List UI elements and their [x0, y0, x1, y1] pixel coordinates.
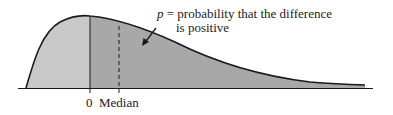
annotation-line-2: is positive — [176, 21, 229, 34]
median-label: Median — [99, 96, 139, 109]
annotation-variable: p — [157, 6, 164, 21]
annotation-line-1: p = probability that the difference — [157, 7, 332, 20]
annotation-text-2: is positive — [176, 20, 229, 35]
annotation-text-1: probability that the difference — [177, 6, 332, 21]
zero-label: 0 — [86, 96, 93, 109]
annotation-equals: = — [167, 6, 174, 21]
